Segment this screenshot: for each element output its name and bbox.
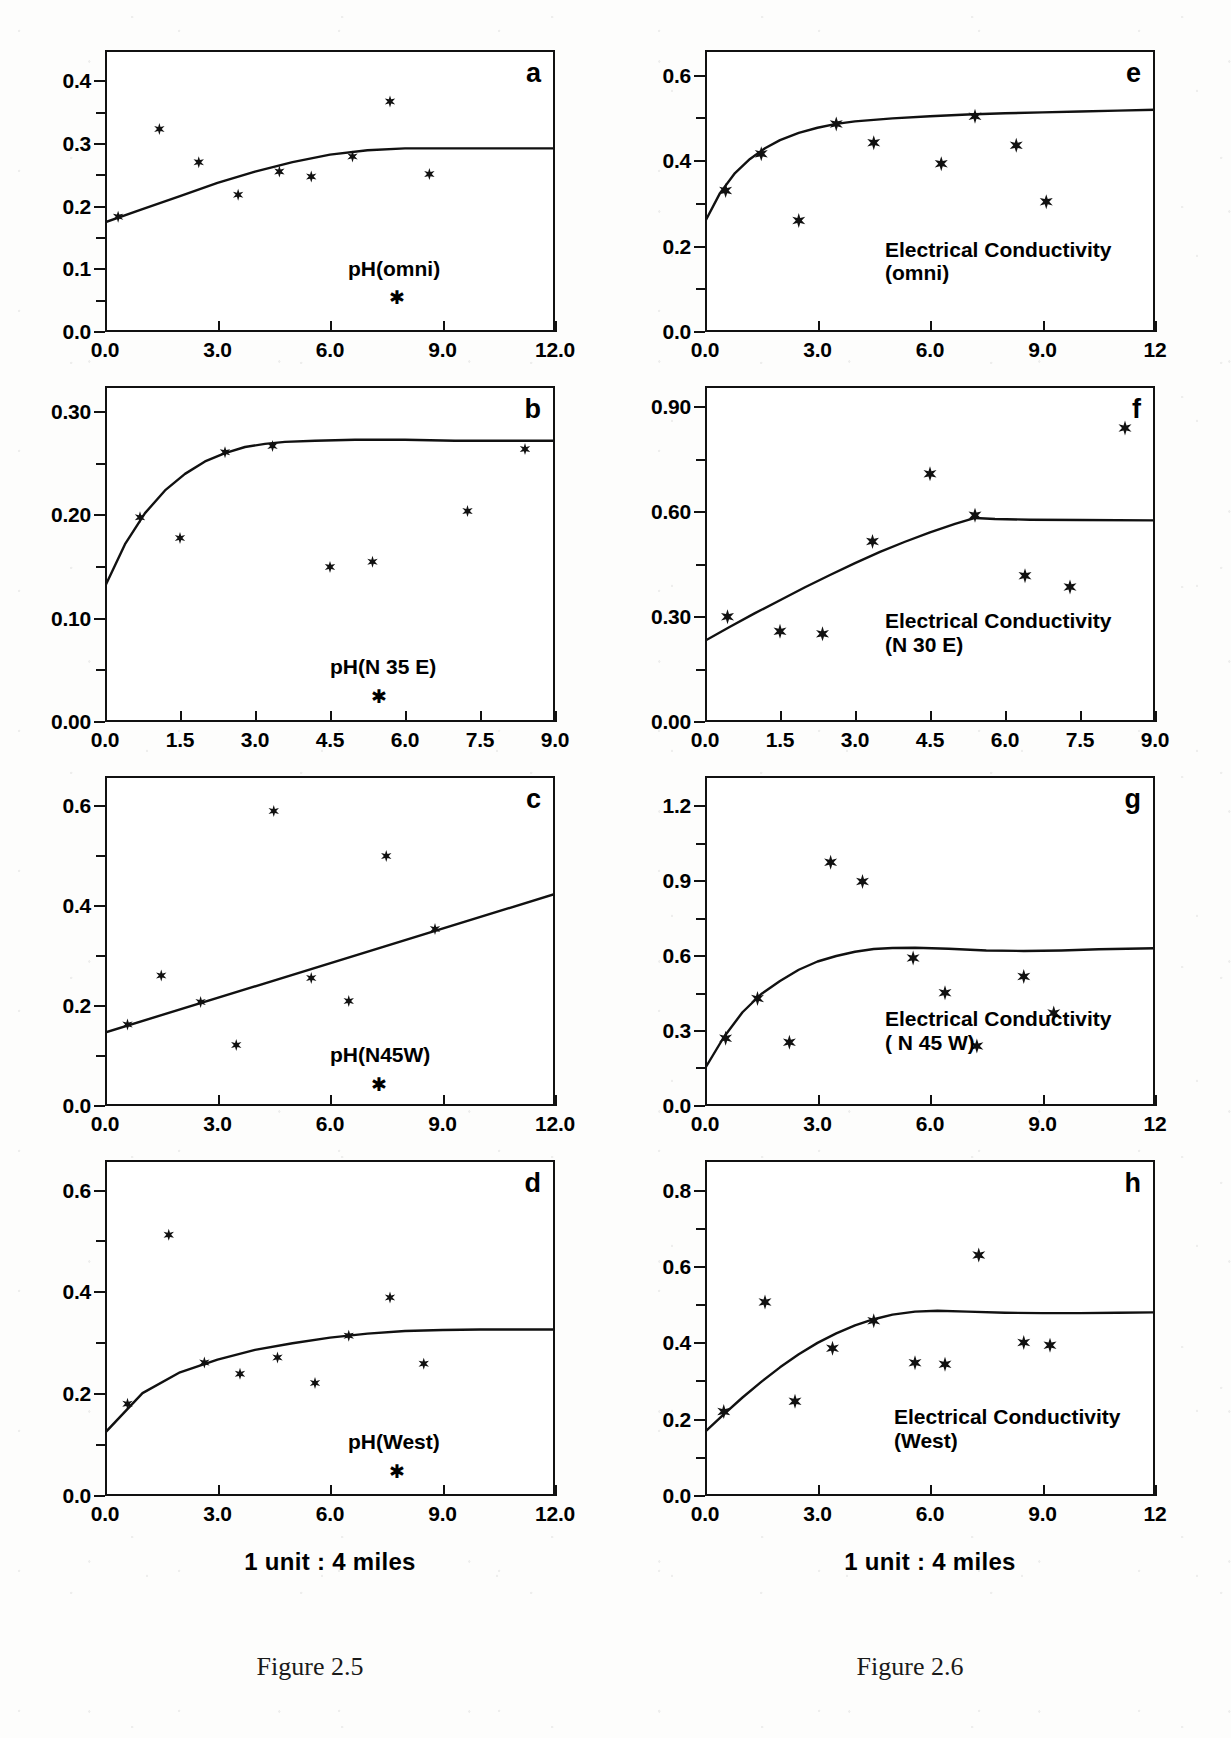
data-point: [156, 970, 166, 982]
y-tick: [694, 721, 705, 723]
x-axis-a: 0.03.06.09.012.0: [105, 334, 555, 364]
x-tick-label: 1.5: [166, 728, 195, 752]
data-point: [164, 1229, 174, 1241]
data-point: [792, 213, 805, 228]
figure-page: 0.00.10.20.30.4apH(omni)✱0.03.06.09.012.…: [0, 0, 1231, 1738]
y-tick: [694, 955, 705, 957]
plot-panel-f: 0.000.300.600.90fElectrical Conductivity…: [610, 378, 1210, 768]
data-point: [381, 850, 391, 862]
x-tick-label: 0.0: [691, 338, 720, 362]
x-tick: [1080, 711, 1082, 722]
plot-area-h: 0.00.20.40.60.8hElectrical Conductivity …: [705, 1160, 1155, 1496]
y-tick-minor: [696, 993, 705, 995]
plot-area-d: 0.00.20.40.6dpH(West)✱: [105, 1160, 555, 1496]
x-axis-b: 0.01.53.04.56.07.59.0: [105, 724, 555, 754]
x-tick: [330, 711, 332, 722]
data-point: [972, 1248, 985, 1263]
plot-panel-g: 0.00.30.60.91.2gElectrical Conductivity …: [610, 768, 1210, 1152]
y-tick-minor: [96, 1240, 105, 1242]
x-axis-h: 0.03.06.09.012: [705, 1498, 1155, 1528]
y-tick-label: 0.6: [62, 1179, 91, 1203]
x-tick: [443, 1095, 445, 1106]
y-tick: [694, 331, 705, 333]
y-tick-minor: [96, 855, 105, 857]
y-tick-label: 0.4: [662, 149, 691, 173]
panel-letter-h: h: [1125, 1168, 1142, 1199]
data-point: [969, 508, 982, 523]
data-point: [325, 561, 335, 573]
data-point: [935, 156, 948, 171]
plot-panel-h: 0.00.20.40.60.8hElectrical Conductivity …: [610, 1152, 1210, 1542]
x-tick: [105, 321, 107, 332]
data-point: [907, 951, 920, 966]
data-point: [235, 1368, 245, 1380]
data-point: [1017, 1335, 1030, 1350]
x-tick-label: 0.0: [91, 728, 120, 752]
data-point: [122, 1398, 132, 1410]
data-point: [135, 511, 145, 523]
y-tick: [94, 1393, 105, 1395]
y-tick: [94, 143, 105, 145]
data-point: [939, 1357, 952, 1372]
x-axis-g: 0.03.06.09.012: [705, 1108, 1155, 1138]
x-tick-label: 3.0: [841, 728, 870, 752]
data-point: [344, 995, 354, 1007]
y-tick: [694, 1105, 705, 1107]
plot-panel-a: 0.00.10.20.30.4apH(omni)✱0.03.06.09.012.…: [10, 42, 610, 378]
y-tick-minor: [696, 288, 705, 290]
series-label-b: pH(N 35 E): [330, 655, 436, 679]
y-tick: [94, 905, 105, 907]
y-tick-label: 0.4: [662, 1331, 691, 1355]
x-tick: [705, 1095, 707, 1106]
data-points-layer-g: [705, 776, 1155, 1106]
data-point: [195, 996, 205, 1008]
y-tick-minor: [696, 1380, 705, 1382]
y-tick: [694, 805, 705, 807]
data-point: [1044, 1338, 1057, 1353]
panel-letter-c: c: [526, 784, 541, 815]
x-axis-e: 0.03.06.09.012: [705, 334, 1155, 364]
data-points-layer-d: [105, 1160, 555, 1496]
y-tick-label: 0.60: [651, 500, 691, 524]
data-point: [385, 1291, 395, 1303]
y-tick-label: 0.4: [62, 1280, 91, 1304]
y-tick-label: 0.2: [662, 235, 691, 259]
y-tick-label: 0.2: [662, 1408, 691, 1432]
y-tick: [94, 411, 105, 413]
x-tick-label: 12: [1144, 1112, 1167, 1136]
x-tick: [330, 321, 332, 332]
x-tick-label: 6.0: [316, 1502, 345, 1526]
data-point: [867, 135, 880, 150]
x-tick: [930, 711, 932, 722]
data-point: [717, 1404, 730, 1419]
y-tick: [94, 331, 105, 333]
y-tick-minor: [696, 1457, 705, 1459]
x-tick-label: 9.0: [1028, 1112, 1057, 1136]
y-tick-minor: [96, 300, 105, 302]
x-tick-label: 7.5: [1066, 728, 1095, 752]
x-tick-label: 9.0: [1141, 728, 1170, 752]
y-tick-label: 0.9: [662, 869, 691, 893]
x-tick-label: 4.5: [316, 728, 345, 752]
plot-area-c: 0.00.20.40.6cpH(N45W)✱: [105, 776, 555, 1106]
x-tick: [555, 1485, 557, 1496]
y-tick: [694, 1266, 705, 1268]
y-tick-minor: [696, 918, 705, 920]
data-point: [1017, 969, 1030, 984]
y-tick: [94, 1291, 105, 1293]
x-tick: [480, 711, 482, 722]
x-tick: [1043, 1485, 1045, 1496]
y-tick-label: 1.2: [662, 794, 691, 818]
x-tick: [780, 711, 782, 722]
y-tick-label: 0.8: [662, 1179, 691, 1203]
x-tick-label: 0.0: [691, 1112, 720, 1136]
y-tick: [94, 1005, 105, 1007]
data-point: [220, 446, 230, 458]
y-tick-label: 0.2: [62, 195, 91, 219]
x-tick-label: 3.0: [803, 338, 832, 362]
x-tick: [818, 1485, 820, 1496]
data-point: [272, 1352, 282, 1364]
data-point: [719, 183, 732, 198]
data-point: [233, 189, 243, 201]
x-tick-label: 12: [1144, 1502, 1167, 1526]
